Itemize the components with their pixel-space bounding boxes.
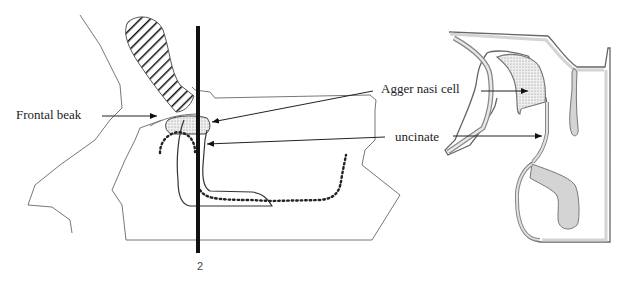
arrow-agger-nasi-left	[212, 91, 373, 122]
sagittal-view: 2 Frontal beak Agger nasi cell uncinate	[16, 15, 460, 272]
uncinate-coronal-inner	[533, 102, 547, 162]
dotted-line-meatus	[200, 155, 346, 201]
label-agger-nasi: Agger nasi cell	[381, 81, 460, 96]
agger-nasi-cell	[166, 116, 210, 134]
middle-turbinate	[570, 68, 578, 136]
frontal-sinus	[126, 17, 194, 112]
arrow-uncinate-left	[207, 137, 385, 144]
nasal-cavity-outline	[112, 87, 400, 240]
cut-line-number: 2	[197, 260, 203, 272]
inferior-turbinate	[530, 164, 579, 229]
anatomy-diagram: 2 Frontal beak Agger nasi cell uncinate	[0, 0, 623, 281]
coronal-view	[445, 32, 610, 242]
agger-nasi-cell-coronal	[497, 54, 545, 114]
face-outline	[28, 15, 122, 233]
label-uncinate: uncinate	[395, 129, 439, 144]
label-frontal-beak: Frontal beak	[16, 107, 82, 122]
